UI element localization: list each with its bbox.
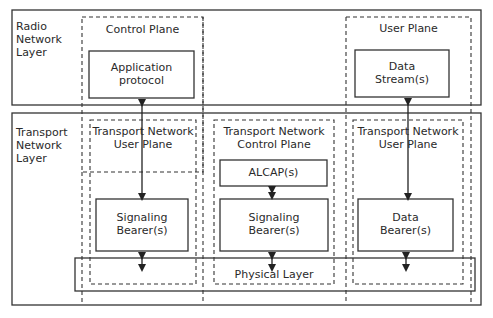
signaling-bearer-left-label: Signaling Bearer(s) (96, 211, 188, 237)
transport-network-layer-label: Transport Network Layer (16, 126, 68, 165)
tn-user-plane-left-label: Transport Network User Plane (90, 125, 196, 151)
application-protocol-label: Application protocol (89, 61, 194, 87)
alcap-label: ALCAP(s) (220, 166, 327, 179)
tn-user-plane-right-label: Transport Network User Plane (353, 125, 463, 151)
data-bearer-label: Data Bearer(s) (358, 211, 453, 237)
control-plane-label: Control Plane (82, 23, 203, 36)
physical-layer-label: Physical Layer (220, 268, 328, 281)
signaling-bearer-mid-label: Signaling Bearer(s) (220, 211, 328, 237)
radio-network-layer-label: Radio Network Layer (16, 20, 62, 59)
tn-control-plane-label: Transport Network Control Plane (214, 125, 334, 151)
user-plane-label: User Plane (346, 22, 471, 35)
data-streams-label: Data Stream(s) (355, 60, 449, 86)
